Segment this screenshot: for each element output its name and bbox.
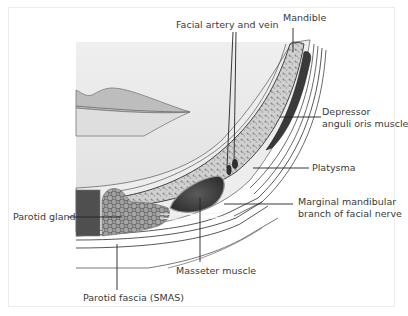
medial-muscle-block [76,190,100,236]
label-marginal-line2: branch of facial nerve [298,208,402,220]
label-mandible: Mandible [283,12,326,24]
facial-vein-icon [232,159,238,169]
label-parotid-fascia: Parotid fascia (SMAS) [83,292,184,304]
label-depressor-line1: Depressor [322,106,370,118]
label-parotid-gland: Parotid gland [13,211,76,223]
label-facial-artery-vein: Facial artery and vein [176,19,279,31]
label-marginal-line1: Marginal mandibular [298,196,396,208]
label-platysma: Platysma [312,162,356,174]
label-depressor-line2: anguli oris muscle [322,118,408,130]
label-masseter: Masseter muscle [176,265,256,277]
